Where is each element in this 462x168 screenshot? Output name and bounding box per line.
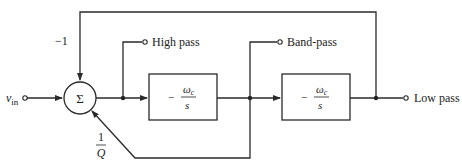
sigma-symbol: Σ — [76, 91, 84, 106]
filter-block-diagram: −1 vin Σ High pass − ωc s Band-pass 1 Q … — [0, 0, 462, 168]
input-label: vin — [6, 91, 19, 107]
integrator2-sign: − — [301, 91, 307, 103]
gain-label-minus-one: −1 — [55, 34, 68, 48]
highpass-branch — [123, 42, 142, 98]
gain-label-one-over-q-den: Q — [97, 146, 106, 160]
bandpass-label: Band-pass — [287, 35, 337, 49]
junction-dot-lowpass — [374, 96, 378, 100]
highpass-label: High pass — [152, 35, 200, 49]
bandpass-terminal — [278, 40, 282, 44]
gain-label-one-over-q-num: 1 — [98, 130, 104, 144]
highpass-terminal — [143, 40, 147, 44]
lowpass-label: Low pass — [414, 91, 460, 105]
lowpass-terminal — [404, 96, 408, 100]
integrator2-denominator: s — [318, 99, 322, 111]
input-terminal — [23, 96, 27, 100]
integrator1-denominator: s — [185, 99, 189, 111]
bandpass-branch — [250, 42, 277, 98]
integrator1-sign: − — [168, 91, 174, 103]
